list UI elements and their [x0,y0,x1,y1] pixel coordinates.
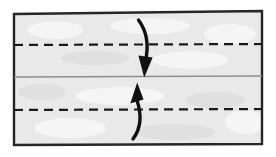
origami-diagram [0,0,276,157]
fold-diagram-canvas [0,0,276,157]
upper-crease-line [14,44,262,45]
